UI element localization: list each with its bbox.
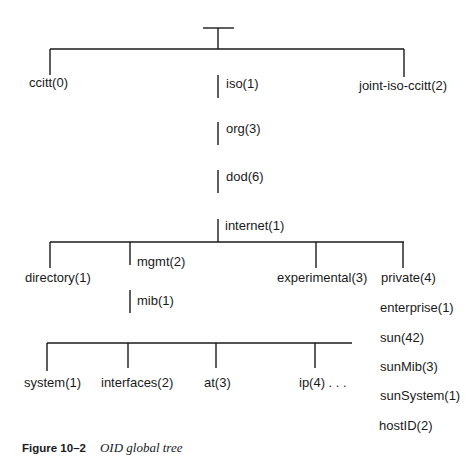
node-dod: dod(6) bbox=[226, 169, 264, 185]
node-directory: directory(1) bbox=[25, 270, 91, 286]
figure-title: OID global tree bbox=[100, 440, 183, 455]
node-system: system(1) bbox=[24, 375, 81, 391]
node-ccitt: ccitt(0) bbox=[29, 75, 68, 91]
node-mib: mib(1) bbox=[137, 293, 174, 309]
node-hostid: hostID(2) bbox=[379, 418, 432, 434]
node-interfaces: interfaces(2) bbox=[101, 375, 173, 391]
node-internet: internet(1) bbox=[225, 218, 284, 234]
node-joint-iso-ccitt: joint-iso-ccitt(2) bbox=[359, 78, 447, 94]
node-iso: iso(1) bbox=[226, 76, 259, 92]
node-at: at(3) bbox=[204, 375, 231, 391]
node-mgmt: mgmt(2) bbox=[137, 254, 185, 270]
node-experimental: experimental(3) bbox=[277, 270, 367, 286]
node-org: org(3) bbox=[226, 121, 261, 137]
figure-number: Figure 10–2 bbox=[22, 442, 86, 454]
node-sunsystem: sunSystem(1) bbox=[380, 388, 460, 404]
figure-caption: Figure 10–2OID global tree bbox=[22, 441, 182, 455]
node-sun: sun(42) bbox=[380, 330, 424, 346]
node-sunmib: sunMib(3) bbox=[380, 359, 438, 375]
node-ip: ip(4) . . . bbox=[299, 375, 347, 391]
node-enterprise: enterprise(1) bbox=[380, 300, 454, 316]
node-private: private(4) bbox=[381, 270, 436, 286]
